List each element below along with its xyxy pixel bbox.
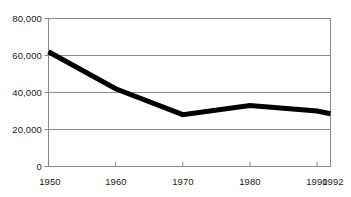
y-axis-label-60000: 60,000: [12, 50, 42, 61]
y-axis-label-40000: 40,000: [12, 87, 42, 98]
chart-canvas: 80,000 60,000 40,000 20,000 0 1950 1960 …: [0, 0, 351, 197]
x-axis-label-1970: 1970: [172, 176, 194, 187]
x-axis-label-1950: 1950: [39, 176, 61, 187]
y-axis-label-20000: 20,000: [12, 124, 42, 135]
x-axis-label-1980: 1980: [239, 176, 261, 187]
y-axis-label-80000: 80,000: [12, 13, 42, 24]
line-chart-figure: 80,000 60,000 40,000 20,000 0 1950 1960 …: [0, 0, 351, 197]
y-axis-label-0: 0: [37, 161, 42, 172]
x-axis-label-1960: 1960: [105, 176, 127, 187]
x-axis-label-1992: 1992: [322, 176, 344, 187]
